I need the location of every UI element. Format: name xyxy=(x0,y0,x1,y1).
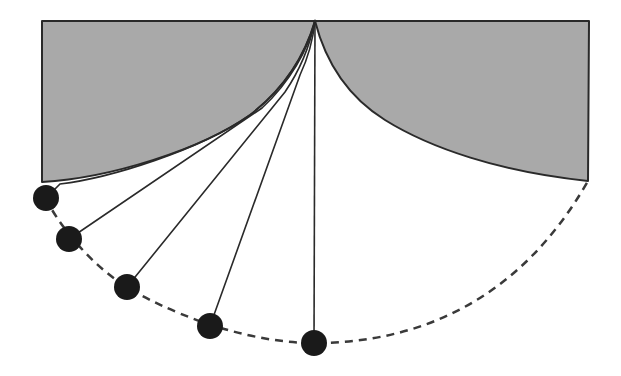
pivot-point xyxy=(314,20,317,23)
bob-4 xyxy=(197,313,223,339)
diagram-canvas xyxy=(0,0,621,376)
pivot-dot xyxy=(314,20,317,23)
bob-3 xyxy=(114,274,140,300)
bob-5 xyxy=(301,330,327,356)
string-5 xyxy=(314,21,315,343)
bob-2 xyxy=(56,226,82,252)
bob-1 xyxy=(33,185,59,211)
cycloidal-pendulum-diagram xyxy=(0,0,621,376)
